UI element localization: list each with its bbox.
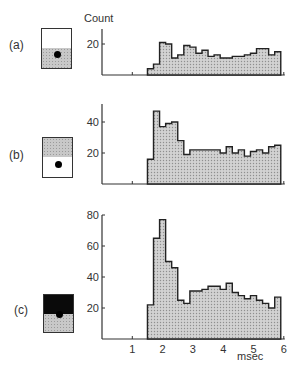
histogram-chart: 20204020406080123456: [0, 0, 297, 367]
x-tick-label: 1: [129, 343, 135, 355]
x-tick-label: 4: [220, 343, 226, 355]
y-tick-label: 20: [87, 38, 99, 50]
y-tick-label: 60: [87, 240, 99, 252]
histogram-bars: [147, 220, 280, 339]
x-tick-label: 3: [190, 343, 196, 355]
y-tick-label: 20: [87, 302, 99, 314]
histogram-bars: [147, 111, 280, 184]
y-tick-label: 20: [87, 147, 99, 159]
y-tick-label: 40: [87, 271, 99, 283]
x-tick-label: 2: [160, 343, 166, 355]
histogram-bars: [147, 42, 280, 75]
y-tick-label: 40: [87, 116, 99, 128]
y-tick-label: 80: [87, 209, 99, 221]
x-tick-label: 6: [281, 343, 287, 355]
x-axis-title: msec: [237, 350, 263, 362]
